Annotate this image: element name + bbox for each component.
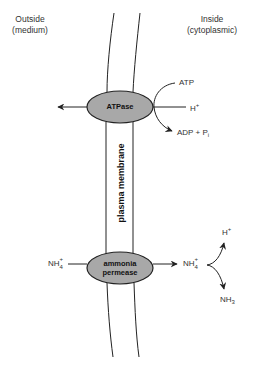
membrane-outer-bottom xyxy=(107,283,113,357)
inside-ammonium-label: NH+4 xyxy=(183,259,200,269)
pi-subscript: i xyxy=(208,132,209,138)
nh3-base: NH xyxy=(220,295,232,304)
atp-label: ATP xyxy=(179,78,194,87)
membrane-inner-bottom xyxy=(134,283,139,357)
permease-label: ammonia permease xyxy=(92,259,148,277)
nh-base: NH xyxy=(183,259,195,268)
nh4-subscript: 4 xyxy=(60,264,63,270)
plasma-membrane-label: plasma membrane xyxy=(116,138,126,228)
membrane-outer-line xyxy=(107,13,114,92)
nh3-subscript: 3 xyxy=(232,299,235,305)
atpase-label: ATPase xyxy=(95,102,145,111)
permease-label-line2: permease xyxy=(92,268,148,277)
ammonia-label: NH3 xyxy=(220,295,235,305)
nh4-charge: + xyxy=(60,256,64,262)
permease-label-line1: ammonia xyxy=(92,259,148,268)
nh4-subscript: 4 xyxy=(195,264,198,270)
outside-ammonium-label: NH+4 xyxy=(48,259,65,269)
proton-charge: + xyxy=(196,102,200,108)
adp-pi-base: ADP + P xyxy=(177,128,208,137)
released-proton-label: H+ xyxy=(222,226,231,237)
proton-charge: + xyxy=(228,226,232,232)
atpase-proton-label: H+ xyxy=(190,102,199,113)
membrane-diagram xyxy=(0,0,254,368)
nh-base: NH xyxy=(48,259,60,268)
dissociation-arrow-down xyxy=(207,265,224,289)
adp-pi-label: ADP + Pi xyxy=(177,128,209,138)
dissociation-arrow-up xyxy=(207,243,224,265)
membrane-inner-line xyxy=(133,13,140,92)
nh4-charge: + xyxy=(195,256,199,262)
